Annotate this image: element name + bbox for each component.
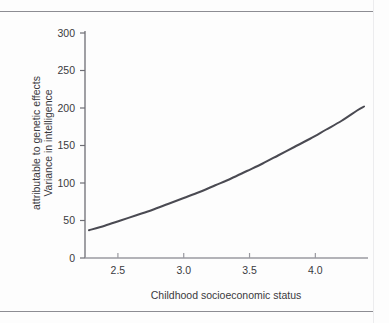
chart-plot-area: 050100150200250300 2.53.03.54.0 Childhoo… [0,11,373,311]
y-tick-label: 300 [57,27,75,39]
y-tick-label: 150 [57,139,75,151]
y-axis-tick-labels: 050100150200250300 [57,27,75,264]
y-tick-label: 100 [57,177,75,189]
x-axis-tick-labels: 2.53.03.54.0 [111,264,323,276]
x-tick-label: 3.5 [242,264,257,276]
x-tick-label: 3.0 [176,264,191,276]
y-tick-label: 50 [63,214,75,226]
y-tick-label: 200 [57,102,75,114]
y-axis-title-line-1: Variance in intelligence [42,89,54,196]
y-axis-title-line-2: attributable to genetic effects [30,76,42,210]
y-tick-label: 0 [69,252,75,264]
x-tick-label: 2.5 [111,264,126,276]
x-axis-title: Childhood socioeconomic status [151,289,302,301]
page-edge-right [373,0,374,323]
figure-page: 050100150200250300 2.53.03.54.0 Childhoo… [0,0,389,323]
y-tick-label: 250 [57,64,75,76]
x-axis-ticks [118,253,315,258]
page-rule-bottom [0,311,373,312]
line-chart-svg: 050100150200250300 2.53.03.54.0 Childhoo… [0,11,373,311]
x-tick-label: 4.0 [308,264,323,276]
data-series-line [89,107,364,231]
y-axis-ticks [80,33,85,258]
